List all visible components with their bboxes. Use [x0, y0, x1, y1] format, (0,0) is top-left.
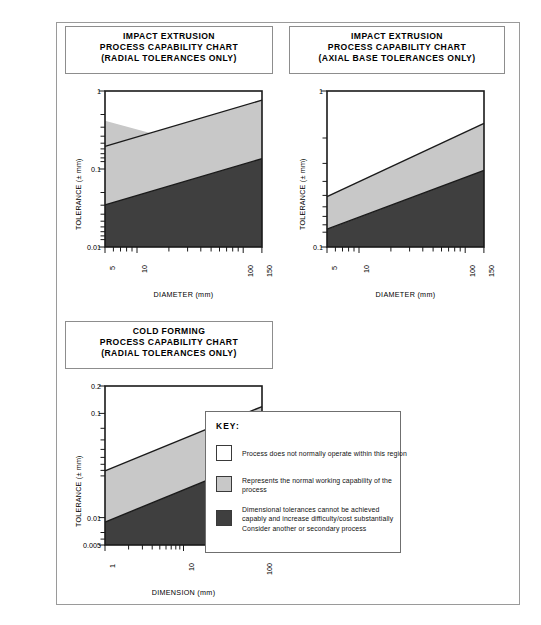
chart-title-line-1: IMPACT EXTRUSION [292, 31, 502, 42]
y-tick-label: 0.005 [61, 541, 101, 550]
chart-title-line-1: IMPACT EXTRUSION [68, 31, 270, 42]
chart-title-line-1: COLD FORMING [68, 326, 270, 337]
chart-title-line-2: PROCESS CAPABILITY CHART [68, 337, 270, 348]
key-item-text: Process does not normally operate within… [242, 449, 402, 458]
x-tick-label: 150 [265, 265, 274, 277]
x-tick-label: 5 [108, 266, 117, 270]
chart-title-box: IMPACT EXTRUSION PROCESS CAPABILITY CHAR… [65, 26, 273, 74]
key-swatch-dark-gray [216, 510, 232, 526]
key-item-line: Represents the normal working capability… [242, 476, 402, 485]
chart-title-line-2: PROCESS CAPABILITY CHART [292, 42, 502, 53]
chart-title-line-2: PROCESS CAPABILITY CHART [68, 42, 270, 53]
key-item-line: process [242, 485, 402, 494]
x-tick-label: 10 [362, 265, 371, 273]
y-tick-label: 0.1 [285, 243, 323, 252]
x-tick-label: 10 [140, 265, 149, 273]
y-tick-label: 0.01 [61, 243, 101, 252]
chart-impact-extrusion-axial: IMPACT EXTRUSION PROCESS CAPABILITY CHAR… [285, 26, 509, 306]
x-tick-label: 100 [265, 563, 274, 575]
x-axis-label: DIAMETER (mm) [327, 290, 484, 299]
key-item-text: Dimensional tolerances cannot be achieve… [242, 505, 402, 533]
page-frame: IMPACT EXTRUSION PROCESS CAPABILITY CHAR… [56, 22, 520, 605]
chart-title-line-3: (AXIAL BASE TOLERANCES ONLY) [292, 53, 502, 64]
key-swatch-light-gray [216, 476, 232, 492]
chart-impact-extrusion-radial: IMPACT EXTRUSION PROCESS CAPABILITY CHAR… [61, 26, 277, 306]
y-axis-label: TOLERANCE (± mm) [298, 158, 307, 230]
x-tick-label: 5 [330, 266, 339, 270]
key-swatch-white [216, 445, 232, 461]
x-tick-label: 150 [487, 265, 496, 277]
y-tick-label: 0.01 [61, 513, 101, 522]
key-item-line: Dimensional tolerances cannot be achieve… [242, 505, 402, 514]
y-tick-label: 1 [61, 87, 101, 96]
chart-title-box: COLD FORMING PROCESS CAPABILITY CHART (R… [65, 321, 273, 369]
key-item-line: Process does not normally operate within… [242, 449, 402, 458]
plot-area-wrapper: TOLERANCE (± mm) 1 0.1 [285, 82, 509, 304]
y-tick-label: 0.2 [61, 382, 101, 391]
y-tick-label: 0.1 [61, 409, 101, 418]
y-tick-label: 1 [285, 87, 323, 96]
chart-title-line-3: (RADIAL TOLERANCES ONLY) [68, 348, 270, 359]
x-tick-label: 100 [246, 265, 255, 277]
key-legend-box: KEY: Process does not normally operate w… [205, 411, 401, 553]
key-item-line: capably and increase difficulty/cost sub… [242, 514, 402, 523]
y-tick-label: 0.1 [61, 165, 101, 174]
x-tick-label: 100 [468, 265, 477, 277]
key-title: KEY: [216, 421, 240, 431]
chart-title-line-3: (RADIAL TOLERANCES ONLY) [68, 53, 270, 64]
key-item-line: Consider another or secondary process [242, 524, 402, 533]
key-item-text: Represents the normal working capability… [242, 476, 402, 495]
chart-title-box: IMPACT EXTRUSION PROCESS CAPABILITY CHAR… [289, 26, 505, 74]
plot-area-wrapper: TOLERANCE (± mm) 1 0.1 0.01 [61, 82, 277, 304]
x-tick-label: 1 [108, 564, 117, 568]
x-tick-label: 10 [187, 563, 196, 571]
x-axis-label: DIMENSION (mm) [105, 588, 262, 597]
plot-svg [61, 82, 277, 304]
x-axis-label: DIAMETER (mm) [105, 290, 262, 299]
